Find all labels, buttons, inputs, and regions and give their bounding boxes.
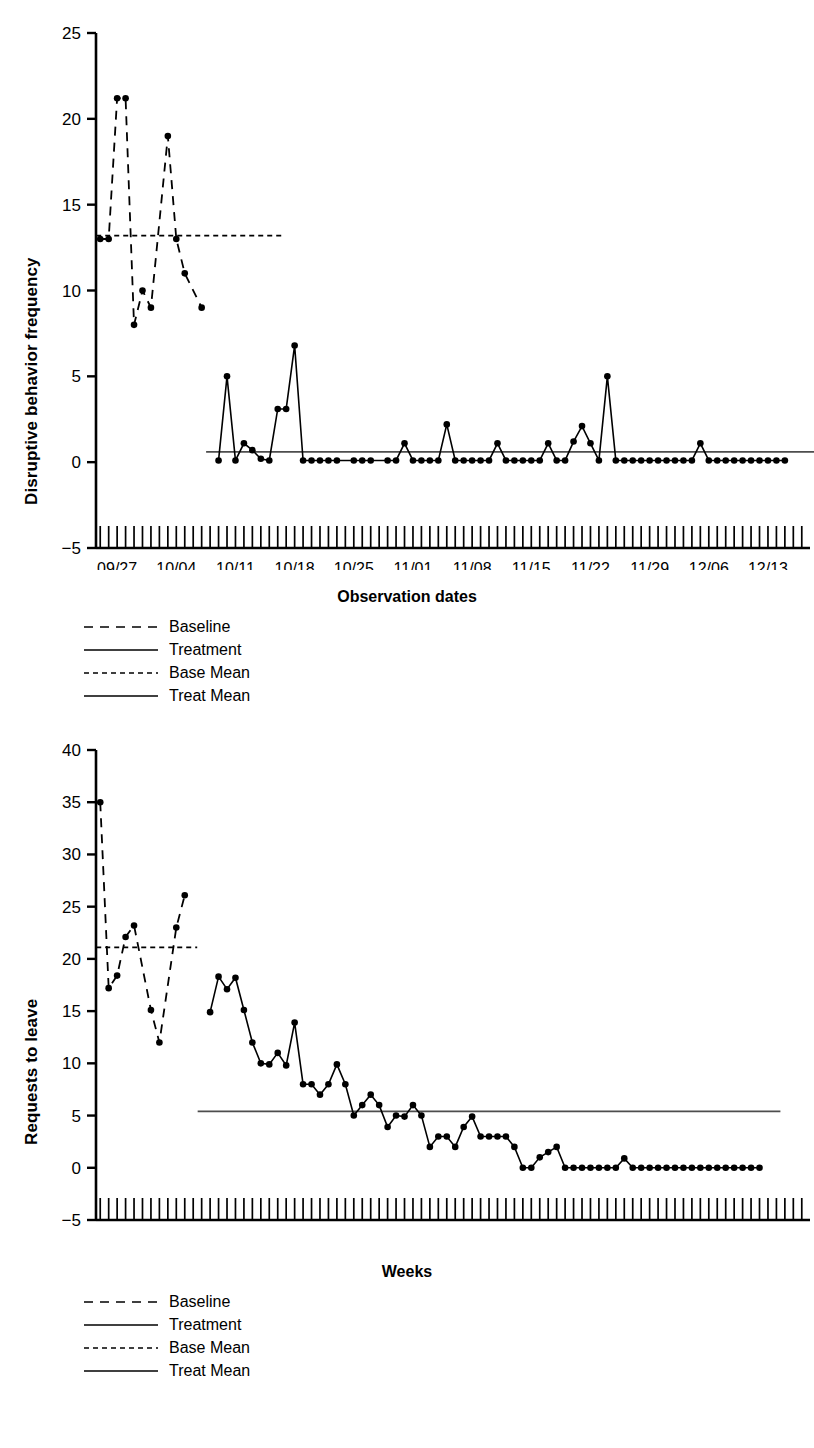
data-point — [655, 457, 662, 464]
legend-item-treatment: Treatment — [82, 638, 250, 661]
data-point — [266, 457, 273, 464]
data-point — [638, 457, 645, 464]
data-point — [148, 304, 155, 311]
data-point — [596, 1164, 603, 1171]
data-point — [283, 1062, 290, 1069]
data-point — [528, 457, 535, 464]
chart2-y-axis-title: Requests to leave — [22, 999, 42, 1145]
data-point — [300, 457, 307, 464]
data-point — [629, 457, 636, 464]
data-point — [97, 236, 104, 243]
data-point — [579, 423, 586, 430]
chart2-legend: BaselineTreatmentBase MeanTreat Mean — [82, 1290, 250, 1382]
data-point — [224, 986, 231, 993]
data-point — [739, 457, 746, 464]
data-point — [232, 974, 239, 981]
legend-item-base-mean: Base Mean — [82, 1336, 250, 1359]
data-point — [283, 406, 290, 413]
legend-key-dashed-short-icon — [82, 1341, 160, 1355]
data-point — [680, 457, 687, 464]
legend-key-dashed-short-icon — [82, 666, 160, 680]
data-point — [249, 447, 256, 454]
data-point — [401, 1113, 408, 1120]
series-treatment — [210, 977, 759, 1168]
y-tick-label: 40 — [62, 741, 81, 760]
legend-key-dashed-long-icon — [82, 1295, 160, 1309]
data-point — [613, 457, 620, 464]
data-point — [663, 1164, 670, 1171]
legend-key-solid-icon — [82, 1364, 160, 1378]
data-point — [748, 1164, 755, 1171]
chart-disruptive-behavior: Disruptive behavior frequency −505101520… — [0, 0, 814, 620]
data-point — [384, 1124, 391, 1131]
y-tick-label: 10 — [62, 1054, 81, 1073]
data-point — [350, 457, 357, 464]
chart1-legend: BaselineTreatmentBase MeanTreat Mean — [82, 615, 250, 707]
legend-label: Base Mean — [169, 1336, 250, 1359]
data-point — [613, 1164, 620, 1171]
data-point — [536, 457, 543, 464]
legend-item-base-mean: Base Mean — [82, 661, 250, 684]
data-point — [477, 457, 484, 464]
legend-label: Treat Mean — [169, 1359, 250, 1382]
data-point — [739, 1164, 746, 1171]
data-point — [350, 1112, 357, 1119]
data-point — [579, 1164, 586, 1171]
data-point — [241, 440, 248, 447]
x-tick-label: 10/04 — [156, 560, 196, 570]
legend-key-solid-icon — [82, 1318, 160, 1332]
y-tick-label: 15 — [62, 196, 81, 215]
data-point — [173, 924, 180, 931]
data-point — [139, 287, 146, 294]
data-point — [131, 922, 138, 929]
data-point — [596, 457, 603, 464]
chart1-y-axis-title: Disruptive behavior frequency — [22, 257, 42, 505]
legend-label: Treat Mean — [169, 684, 250, 707]
legend-item-treatment: Treatment — [82, 1313, 250, 1336]
legend-item-treat-mean: Treat Mean — [82, 1359, 250, 1382]
data-point — [131, 322, 138, 329]
data-point — [570, 1164, 577, 1171]
data-point — [418, 457, 425, 464]
data-point — [114, 972, 121, 979]
legend-key-solid-icon — [82, 689, 160, 703]
data-point — [224, 373, 231, 380]
data-point — [714, 1164, 721, 1171]
data-point — [198, 304, 205, 311]
data-point — [215, 457, 222, 464]
data-point — [773, 457, 780, 464]
data-point — [680, 1164, 687, 1171]
data-point — [638, 1164, 645, 1171]
data-point — [722, 1164, 729, 1171]
data-point — [325, 457, 332, 464]
data-point — [410, 1102, 417, 1109]
data-point — [105, 236, 112, 243]
data-point — [697, 440, 704, 447]
data-point — [207, 1009, 214, 1016]
data-point — [249, 1039, 256, 1046]
data-point — [587, 440, 594, 447]
data-point — [181, 270, 188, 277]
data-point — [604, 373, 611, 380]
y-tick-label: 35 — [62, 793, 81, 812]
data-point — [469, 457, 476, 464]
legend-label: Baseline — [169, 1290, 230, 1313]
data-point — [122, 95, 129, 102]
data-point — [367, 457, 374, 464]
data-point — [782, 457, 789, 464]
data-point — [418, 1112, 425, 1119]
data-point — [342, 1081, 349, 1088]
data-point — [266, 1061, 273, 1068]
data-point — [748, 457, 755, 464]
y-tick-label: 0 — [72, 453, 81, 472]
data-point — [317, 1091, 324, 1098]
y-tick-label: 25 — [62, 898, 81, 917]
y-tick-label: 5 — [72, 1107, 81, 1126]
x-tick-label: 10/25 — [334, 560, 374, 570]
data-point — [410, 457, 417, 464]
data-point — [629, 1164, 636, 1171]
x-tick-label: 11/29 — [630, 560, 669, 570]
data-point — [435, 1133, 442, 1140]
data-point — [477, 1133, 484, 1140]
legend-label: Treatment — [169, 638, 241, 661]
